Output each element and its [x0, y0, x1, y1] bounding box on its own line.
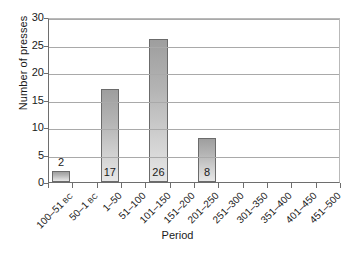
bar: [52, 171, 70, 182]
bar-group: [122, 19, 146, 182]
x-axis-tick-label: 100–51 BC: [35, 190, 76, 231]
y-axis-tick-label: 5: [20, 149, 44, 161]
y-axis-tick: [44, 73, 48, 74]
gridline: [49, 129, 339, 130]
x-axis-tick: [243, 183, 244, 188]
x-axis-tick: [145, 183, 146, 188]
y-axis-tick-label: 25: [20, 39, 44, 51]
bar-value-label: 17: [98, 166, 122, 178]
y-axis-tick-label: 20: [20, 66, 44, 78]
era-suffix: BC: [60, 191, 76, 207]
gridline: [49, 19, 339, 20]
x-axis-tick: [218, 183, 219, 188]
bar-group: 17: [98, 19, 122, 182]
x-axis-title: Period: [0, 229, 355, 241]
plot-area: 217268: [48, 18, 340, 183]
x-axis-tick: [340, 183, 341, 188]
gridline: [49, 74, 339, 75]
x-axis-tick: [194, 183, 195, 188]
y-axis-tick-label: 30: [20, 11, 44, 23]
y-axis-tick: [44, 101, 48, 102]
bar-group: [292, 19, 316, 182]
bar-group: 2: [49, 19, 73, 182]
bar-value-label: 8: [195, 166, 219, 178]
x-axis-tick: [72, 183, 73, 188]
x-axis-tick: [97, 183, 98, 188]
y-axis-tick: [44, 128, 48, 129]
bar-series: 217268: [49, 19, 339, 182]
bar-group: [73, 19, 97, 182]
gridline: [49, 102, 339, 103]
y-axis-tick: [44, 156, 48, 157]
y-axis-tick: [44, 46, 48, 47]
bar-group: [171, 19, 195, 182]
y-axis-tick: [44, 18, 48, 19]
bar-group: [317, 19, 341, 182]
bar-group: [268, 19, 292, 182]
bar-chart: Number of presses 217268 051015202530 10…: [0, 0, 355, 256]
bar-group: [219, 19, 243, 182]
y-axis-tick-label: 15: [20, 94, 44, 106]
bar-group: 8: [195, 19, 219, 182]
gridline: [49, 47, 339, 48]
x-axis-tick: [48, 183, 49, 188]
bar-value-label: 2: [49, 156, 73, 168]
bar-group: [244, 19, 268, 182]
x-axis-tick: [316, 183, 317, 188]
bar-value-label: 26: [146, 166, 170, 178]
bar-group: 26: [146, 19, 170, 182]
x-axis-tick: [291, 183, 292, 188]
bar: [149, 39, 167, 182]
x-axis-tick: [267, 183, 268, 188]
x-axis-tick: [121, 183, 122, 188]
gridline: [49, 157, 339, 158]
x-axis-tick: [170, 183, 171, 188]
y-axis-tick-label: 10: [20, 121, 44, 133]
y-axis-tick-label: 0: [20, 176, 44, 188]
